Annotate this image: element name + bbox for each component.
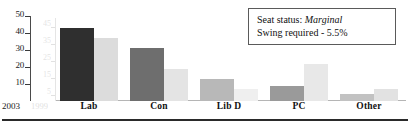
y-tick-mark-30 [25,50,30,51]
corner-label-1999: 1999 [31,101,48,112]
y-tick-mark-10 [25,84,30,85]
y-tick-label-50: 50 [2,10,24,19]
y-tick-mark-faded-45 [51,27,55,28]
category-label-pc: PC [270,101,328,112]
y-tick-mark-faded-15 [51,78,55,79]
y-tick-label-20: 20 [2,61,24,70]
y-tick-label-faded-25: 25 [31,54,51,62]
y-tick-mark-faded-35 [51,44,55,45]
y-tick-label-faded-35: 35 [31,37,51,45]
annotation-seat-status: Seat status: Marginal [257,13,388,26]
y-tick-label-10: 10 [2,78,24,87]
annotation-seat-status-value: Marginal [305,14,342,25]
y-tick-label-faded-5: 5 [31,88,51,96]
bar-2003-lib-d [200,79,234,101]
category-label-con: Con [130,101,188,112]
chart-screenshot: 5040302010 453525155 LabConLib DPCOther … [0,0,410,128]
y-tick-label-faded-45: 45 [31,20,51,28]
bottom-divider-rule [2,119,408,121]
bar-group-lab [60,16,118,101]
y-tick-mark-50 [25,16,30,17]
y-tick-mark-faded-5 [51,95,55,96]
bar-2003-pc [270,86,304,101]
annotation-seat-status-prefix: Seat status: [257,14,305,25]
bar-1999-lib-d [234,89,258,101]
y-tick-mark-20 [25,67,30,68]
category-label-lab: Lab [60,101,118,112]
bar-1999-lab [94,38,118,101]
y-axis-primary: 5040302010 [2,14,24,100]
bar-1999-other [374,89,398,101]
y-tick-label-30: 30 [2,44,24,53]
x-axis-category-labels: LabConLib DPCOther [56,101,406,114]
y-tick-mark-40 [25,33,30,34]
category-label-other: Other [340,101,398,112]
bar-1999-pc [304,64,328,101]
bar-2003-other [340,94,374,101]
category-label-lib-d: Lib D [200,101,258,112]
bar-group-con [130,16,188,101]
y-tick-label-faded-15: 15 [31,71,51,79]
corner-label-2003: 2003 [2,101,20,112]
y-axis-secondary: 453525155 [31,14,51,102]
y-tick-label-40: 40 [2,27,24,36]
bar-2003-con [130,48,164,101]
annotation-swing-required: Swing required - 5.5% [257,26,388,39]
bar-1999-con [164,69,188,101]
annotation-box: Seat status: Marginal Swing required - 5… [248,8,396,45]
bar-2003-lab [60,28,94,101]
y-tick-mark-faded-25 [51,61,55,62]
